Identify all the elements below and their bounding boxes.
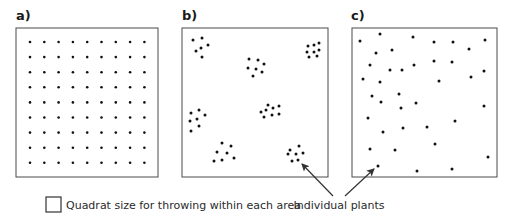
plant-dot bbox=[484, 39, 487, 42]
plant-dot bbox=[380, 101, 383, 104]
plant-dot bbox=[115, 86, 118, 89]
plant-dot bbox=[43, 71, 46, 74]
plant-dot bbox=[198, 125, 201, 128]
plant-dot bbox=[362, 78, 365, 81]
plant-dot bbox=[369, 148, 372, 151]
plant-dot bbox=[129, 162, 132, 165]
plant-dot bbox=[196, 118, 199, 121]
plant-dot bbox=[57, 86, 60, 89]
plant-dot bbox=[263, 116, 266, 119]
plant-dot bbox=[129, 116, 132, 119]
plant-dot bbox=[295, 153, 298, 156]
plant-dot bbox=[260, 111, 263, 114]
plant-dot bbox=[129, 101, 132, 104]
plant-dot bbox=[29, 86, 32, 89]
quadrat-legend-label: Quadrat size for throwing within each ar… bbox=[66, 199, 301, 212]
plant-dot bbox=[263, 63, 266, 66]
plant-dot bbox=[412, 36, 415, 39]
plant-dot bbox=[115, 116, 118, 119]
plant-dot bbox=[86, 71, 89, 74]
plant-dot bbox=[307, 45, 310, 48]
plant-dot bbox=[192, 39, 195, 42]
plant-dot bbox=[382, 131, 385, 134]
plant-dot bbox=[261, 71, 264, 74]
plant-dot bbox=[29, 71, 32, 74]
plant-dot bbox=[190, 112, 193, 115]
plant-dot bbox=[43, 116, 46, 119]
plant-dot bbox=[29, 56, 32, 59]
plant-dot bbox=[255, 68, 258, 71]
plant-dot bbox=[400, 107, 403, 110]
plant-dot bbox=[143, 71, 146, 74]
plant-dot bbox=[287, 153, 290, 156]
plant-dot bbox=[100, 146, 103, 149]
plant-dot bbox=[313, 51, 316, 54]
plant-dot bbox=[391, 49, 394, 52]
plant-dot bbox=[318, 49, 321, 52]
plant-dot bbox=[413, 64, 416, 67]
plant-dot bbox=[221, 142, 224, 145]
plant-dot bbox=[100, 56, 103, 59]
plant-dot bbox=[298, 145, 301, 148]
plant-dot bbox=[57, 131, 60, 134]
plant-dot bbox=[43, 101, 46, 104]
plant-dot bbox=[72, 56, 75, 59]
plant-dot bbox=[72, 162, 75, 165]
plant-dot bbox=[100, 41, 103, 44]
plant-dot bbox=[468, 48, 471, 51]
plant-dot bbox=[86, 86, 89, 89]
plant-dot bbox=[257, 59, 260, 62]
plant-dot bbox=[57, 101, 60, 104]
plant-dot bbox=[72, 71, 75, 74]
plant-dot bbox=[57, 56, 60, 59]
panel-b-clumped: b) bbox=[182, 8, 328, 177]
plant-dot bbox=[72, 116, 75, 119]
plant-dot bbox=[401, 69, 404, 72]
plant-dot bbox=[289, 149, 292, 152]
plant-dot bbox=[433, 41, 436, 44]
plant-dot bbox=[129, 41, 132, 44]
plant-dot bbox=[451, 61, 454, 64]
plant-dot bbox=[426, 126, 429, 129]
panel-b-label: b) bbox=[182, 8, 197, 23]
plant-dot bbox=[115, 101, 118, 104]
plant-dot bbox=[115, 162, 118, 165]
plant-dot bbox=[29, 41, 32, 44]
panel-a-label: a) bbox=[16, 8, 31, 23]
plant-dot bbox=[483, 105, 486, 108]
plant-dot bbox=[302, 152, 305, 155]
plant-dot bbox=[207, 44, 210, 47]
plant-dot bbox=[394, 149, 397, 152]
plant-dot bbox=[313, 44, 316, 47]
plant-dot bbox=[115, 41, 118, 44]
plant-dot bbox=[115, 71, 118, 74]
plant-dot bbox=[143, 116, 146, 119]
plant-dot bbox=[375, 52, 378, 55]
plant-dot bbox=[86, 101, 89, 104]
plant-dot bbox=[483, 70, 486, 73]
plant-dot bbox=[267, 104, 270, 107]
plant-dot bbox=[100, 131, 103, 134]
plant-dot bbox=[43, 162, 46, 165]
plant-dot bbox=[377, 165, 380, 168]
plant-dot bbox=[100, 162, 103, 165]
plant-dot bbox=[195, 50, 198, 53]
plant-dot bbox=[86, 146, 89, 149]
plant-dot bbox=[487, 156, 490, 159]
panel-b-area bbox=[182, 28, 328, 177]
plant-dot bbox=[129, 86, 132, 89]
plant-dot bbox=[318, 42, 321, 45]
plant-dot bbox=[143, 41, 146, 44]
plant-dot bbox=[100, 86, 103, 89]
plant-dot bbox=[216, 151, 219, 154]
plant-dot bbox=[252, 75, 255, 78]
plant-dot bbox=[43, 86, 46, 89]
plant-dot bbox=[43, 146, 46, 149]
plant-dot bbox=[297, 159, 300, 162]
plant-dot bbox=[57, 116, 60, 119]
plant-dot bbox=[115, 131, 118, 134]
plant-dot bbox=[415, 102, 418, 105]
plant-dot bbox=[308, 56, 311, 59]
plant-dot bbox=[402, 127, 405, 130]
panel-c-random: c) bbox=[351, 8, 497, 177]
